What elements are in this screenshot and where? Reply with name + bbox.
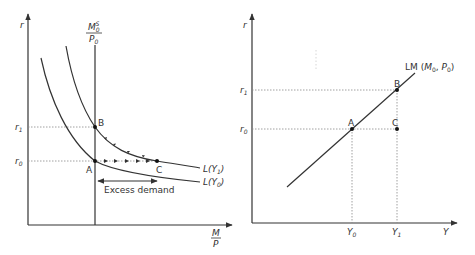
right-label-a: A xyxy=(348,118,355,128)
ly0-curve xyxy=(41,58,200,182)
ly0-label: L(Y0) xyxy=(203,177,224,188)
right-x-label: Y xyxy=(443,227,450,237)
right-r1-label: r1 xyxy=(240,85,248,96)
y1-label: Y1 xyxy=(392,227,401,238)
left-y-label: r xyxy=(20,20,25,30)
left-r0-label: r0 xyxy=(15,156,23,167)
point-a-left xyxy=(93,159,97,163)
point-c-left xyxy=(155,159,159,163)
right-r0-label: r0 xyxy=(240,124,248,135)
lm-curve-panel: r r1 r0 A B C LM (M0, P0) Y0 Y1 Y xyxy=(240,14,457,238)
left-label-b: B xyxy=(98,118,104,128)
ms-numerator: M0S xyxy=(88,20,100,33)
adjustment-arrows-curve xyxy=(104,137,145,158)
left-label-c: C xyxy=(156,165,162,175)
right-y-label: r xyxy=(243,20,248,30)
diagram-canvas: r M0S P0 r1 r0 B A C L(Y1) L(Y0) Excess … xyxy=(0,0,475,255)
right-label-c: C xyxy=(392,118,398,128)
point-b-left xyxy=(93,125,97,129)
ms-denominator: P0 xyxy=(89,34,98,45)
right-label-b: B xyxy=(394,79,400,89)
ly1-label: L(Y1) xyxy=(203,164,224,175)
ly1-curve xyxy=(66,46,200,168)
left-x-numerator: M xyxy=(212,228,220,238)
lm-label: LM (M0, P0) xyxy=(405,62,454,73)
y0-label: Y0 xyxy=(347,227,357,238)
left-label-a: A xyxy=(86,165,93,175)
money-market-panel: r M0S P0 r1 r0 B A C L(Y1) L(Y0) Excess … xyxy=(15,14,232,249)
left-x-denominator: P xyxy=(213,239,219,249)
left-r1-label: r1 xyxy=(15,122,23,133)
excess-demand-label: Excess demand xyxy=(104,185,175,195)
